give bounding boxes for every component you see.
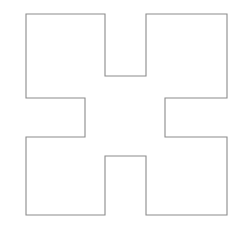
cross-polygon-figure [0,0,237,244]
